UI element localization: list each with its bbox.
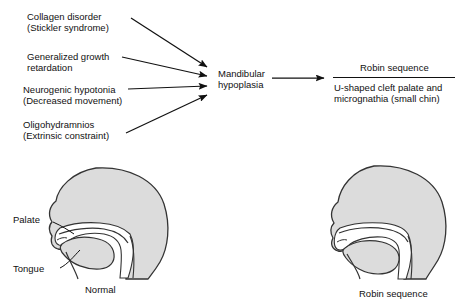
figure-caption-robin-sequence: Robin sequence	[359, 288, 428, 299]
anatomy-layer	[0, 0, 462, 306]
figure-label-palate: Palate	[13, 214, 40, 225]
robin-tongue	[343, 241, 399, 274]
normal-tongue	[60, 237, 114, 269]
robin-head-figure	[331, 166, 446, 279]
diagram-canvas: Collagen disorder(Stickler syndrome) Gen…	[0, 0, 462, 306]
figure-caption-normal: Normal	[85, 284, 116, 295]
figure-label-tongue: Tongue	[13, 263, 44, 274]
normal-head-figure	[49, 168, 168, 279]
